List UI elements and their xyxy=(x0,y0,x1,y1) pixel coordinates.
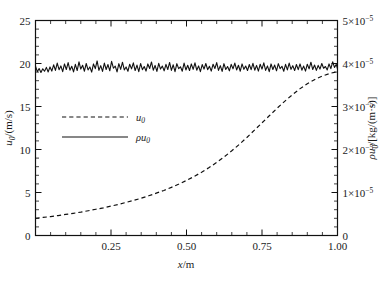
x-tick-label: 0.75 xyxy=(252,240,272,252)
y-axis-right-ticks xyxy=(332,21,338,236)
plot-frame xyxy=(36,21,338,236)
y-left-tick-label: 10 xyxy=(20,144,32,156)
x-axis-ticks xyxy=(36,21,338,236)
x-tick-label: 0.50 xyxy=(177,240,197,252)
figure-chart-u0-rho-u0: 0.250.500.751.00 0510152025 01×10−52×10−… xyxy=(0,0,385,282)
svg-text:ρu0/[kg/(m·s)]: ρu0/[kg/(m·s)] xyxy=(365,97,380,161)
y-right-tick-label: 1×10−5 xyxy=(343,186,374,199)
y-left-tick-label: 5 xyxy=(25,187,31,199)
y-left-tick-label: 25 xyxy=(20,15,32,27)
y-right-tick-label: 0 xyxy=(343,230,349,242)
y-axis-right-title: ρu0/[kg/(m·s)] xyxy=(365,97,380,161)
legend-label-rho-u0: ρu0 xyxy=(135,132,150,146)
x-axis-title: x/m xyxy=(177,258,195,270)
y-axis-left-ticks xyxy=(36,21,42,236)
legend-label-u0: u0 xyxy=(136,112,145,126)
y-axis-left-tick-labels: 0510152025 xyxy=(20,15,32,242)
series-rho-u0-solid-line xyxy=(36,61,338,73)
svg-text:u0/(m/s): u0/(m/s) xyxy=(2,110,17,146)
x-axis-tick-labels: 0.250.500.751.00 xyxy=(101,240,347,252)
y-left-tick-label: 0 xyxy=(25,230,31,242)
y-left-tick-label: 20 xyxy=(20,58,32,70)
chart-canvas: 0.250.500.751.00 0510152025 01×10−52×10−… xyxy=(0,0,385,282)
x-tick-label: 0.25 xyxy=(101,240,121,252)
legend: u0 ρu0 xyxy=(62,112,150,146)
y-right-tick-label: 4×10−5 xyxy=(343,57,374,70)
svg-text:x/m: x/m xyxy=(177,258,195,270)
series-group xyxy=(36,61,338,218)
series-u0-dashed-line xyxy=(36,72,338,219)
y-axis-left-title: u0/(m/s) xyxy=(2,110,17,146)
y-right-tick-label: 5×10−5 xyxy=(343,14,374,27)
y-left-tick-label: 15 xyxy=(20,101,32,113)
